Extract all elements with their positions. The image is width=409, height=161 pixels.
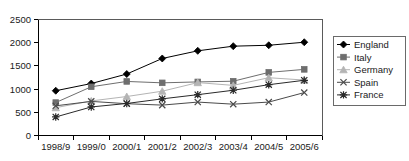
square-marker — [341, 54, 347, 60]
plot-area-border — [38, 20, 322, 136]
data-point-marker — [301, 39, 308, 46]
data-point-marker — [88, 84, 94, 90]
asterisk-marker — [194, 91, 201, 98]
chart-canvas: 050010001500200025001998/91999/02000/120… — [0, 0, 409, 161]
diamond-marker — [194, 47, 201, 54]
y-axis-tick-label: 0 — [26, 130, 31, 141]
data-point-marker — [124, 79, 130, 85]
legend-item-label: Italy — [354, 52, 372, 63]
x-axis-tick-label: 2000/1 — [112, 141, 141, 152]
asterisk-marker — [123, 100, 130, 107]
data-point-marker — [52, 87, 59, 94]
data-point-marker — [340, 91, 347, 98]
series-germany — [52, 74, 308, 111]
data-point-marker — [159, 55, 166, 62]
x-axis-tick-label: 2004/5 — [254, 141, 283, 152]
diamond-marker — [230, 43, 237, 50]
square-marker — [301, 67, 307, 73]
legend-item-label: Germany — [354, 64, 393, 75]
diamond-marker — [159, 55, 166, 62]
legend-item-label: France — [354, 89, 384, 100]
data-point-marker — [341, 54, 347, 60]
asterisk-marker — [52, 113, 59, 120]
data-point-marker — [194, 91, 201, 98]
data-point-marker — [159, 95, 166, 102]
data-point-marker — [230, 43, 237, 50]
x-axis-tick-label: 1998/9 — [41, 141, 70, 152]
data-point-marker — [123, 100, 130, 107]
asterisk-marker — [230, 87, 237, 94]
data-point-marker — [265, 81, 272, 88]
diamond-marker — [52, 87, 59, 94]
x-axis-tick-label: 2002/3 — [183, 141, 212, 152]
asterisk-marker — [159, 95, 166, 102]
data-point-marker — [123, 71, 130, 78]
asterisk-marker — [265, 81, 272, 88]
diamond-marker — [123, 71, 130, 78]
x-axis-tick-label: 2005/6 — [290, 141, 319, 152]
x-axis-tick-label: 2001/2 — [148, 141, 177, 152]
data-point-marker — [88, 103, 95, 110]
line-chart-figure: 050010001500200025001998/91999/02000/120… — [0, 0, 409, 161]
y-axis-tick-label: 2000 — [10, 37, 31, 48]
x-axis-tick-label: 2003/4 — [219, 141, 248, 152]
data-point-marker — [301, 89, 307, 95]
diamond-marker — [301, 39, 308, 46]
y-axis-tick-label: 500 — [15, 107, 31, 118]
x-axis-tick-label: 1999/0 — [77, 141, 106, 152]
legend-item-label: England — [354, 39, 389, 50]
asterisk-marker — [88, 103, 95, 110]
y-axis-tick-label: 2500 — [10, 14, 31, 25]
data-point-marker — [301, 67, 307, 73]
asterisk-marker — [340, 91, 347, 98]
cross-marker — [301, 89, 307, 95]
y-axis-tick-label: 1500 — [10, 60, 31, 71]
square-marker — [124, 79, 130, 85]
data-point-marker — [265, 42, 272, 49]
data-point-marker — [52, 113, 59, 120]
y-axis-tick-label: 1000 — [10, 84, 31, 95]
legend-item-label: Spain — [354, 77, 378, 88]
data-point-marker — [301, 77, 308, 84]
square-marker — [88, 84, 94, 90]
data-point-marker — [159, 80, 165, 86]
square-marker — [159, 80, 165, 86]
data-point-marker — [230, 87, 237, 94]
data-point-marker — [194, 47, 201, 54]
asterisk-marker — [301, 77, 308, 84]
diamond-marker — [265, 42, 272, 49]
